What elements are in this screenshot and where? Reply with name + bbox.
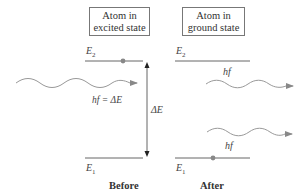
incident-photon-label: hf = ΔE [92, 95, 122, 105]
before-box-line2: excited state [90, 22, 149, 34]
emitted-photon-label-lower: hf [225, 140, 233, 151]
before-state-box: Atom in excited state [89, 7, 150, 36]
after-state-box: Atom in ground state [182, 7, 245, 36]
after-upper-level-label: E2 [176, 45, 186, 59]
emitted-photon-label-upper: hf [223, 66, 231, 77]
energy-gap-arrowhead-up [145, 62, 150, 68]
emitted-photon-wave-upper [206, 80, 293, 88]
before-caption: Before [109, 180, 139, 191]
after-caption: After [200, 180, 224, 191]
after-lower-level-label: E1 [176, 162, 186, 176]
emitted-photon-wave-lower [207, 128, 292, 136]
after-box-line1: Atom in [183, 10, 244, 22]
before-electron-dot [121, 59, 126, 64]
after-box-line2: ground state [183, 22, 244, 34]
energy-gap-arrowhead-down [145, 151, 150, 157]
before-upper-level-label: E2 [86, 45, 96, 59]
before-box-line1: Atom in [90, 10, 149, 22]
after-electron-dot [211, 156, 216, 161]
energy-gap-label: ΔE [151, 104, 163, 115]
incident-photon-wave [16, 79, 137, 88]
before-lower-level-label: E1 [86, 162, 96, 176]
